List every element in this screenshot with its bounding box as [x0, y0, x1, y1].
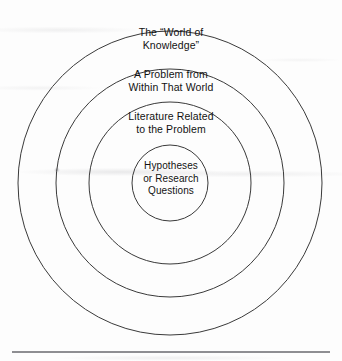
ring-label-problem-from-world: A Problem from Within That World — [0, 68, 342, 93]
ring-label-literature-related: Literature Related to the Problem — [0, 110, 342, 135]
ring-label-hypotheses-or-research-questions: Hypotheses or Research Questions — [0, 160, 342, 198]
bottom-horizontal-rule — [12, 351, 330, 353]
concentric-circles-figure: The “World of Knowledge” A Problem from … — [0, 0, 342, 361]
ring-label-world-of-knowledge: The “World of Knowledge” — [0, 26, 342, 51]
